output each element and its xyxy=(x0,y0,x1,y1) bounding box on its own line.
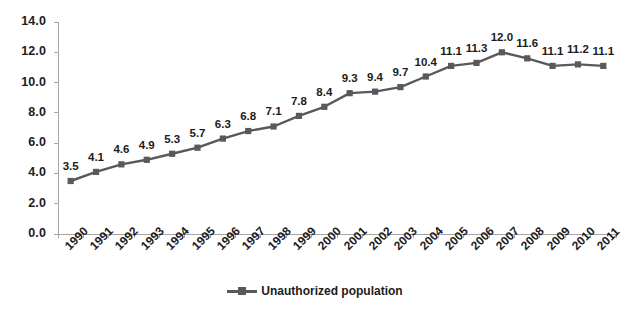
legend-marker-swatch xyxy=(227,285,257,297)
data-point-marker xyxy=(245,128,251,134)
y-axis-tick-label: 12.0 xyxy=(2,44,46,58)
data-point-marker xyxy=(144,157,150,163)
y-axis-tick-label: 8.0 xyxy=(2,105,46,119)
data-point-marker xyxy=(499,49,505,55)
data-point-marker xyxy=(524,55,530,61)
chart-tick-marks xyxy=(54,22,616,238)
data-point-marker xyxy=(194,145,200,151)
chart-container: 0.02.04.06.08.010.012.014.0 199019911992… xyxy=(0,0,630,309)
data-point-marker xyxy=(600,63,606,69)
data-point-value-label: 11.1 xyxy=(588,45,618,57)
data-point-marker xyxy=(397,84,403,90)
y-axis-tick-label: 10.0 xyxy=(2,75,46,89)
data-point-value-label: 7.1 xyxy=(259,105,289,117)
data-point-marker xyxy=(549,63,555,69)
y-axis-tick-label: 2.0 xyxy=(2,196,46,210)
data-point-marker xyxy=(296,113,302,119)
legend-series-label: Unauthorized population xyxy=(261,284,402,298)
y-axis-tick-label: 0.0 xyxy=(2,226,46,240)
chart-axes xyxy=(58,22,616,234)
data-point-marker xyxy=(473,60,479,66)
chart-legend: Unauthorized population xyxy=(0,281,630,301)
data-point-value-label: 9.7 xyxy=(385,66,415,78)
data-series-group xyxy=(68,49,607,184)
y-axis-tick-label: 4.0 xyxy=(2,165,46,179)
data-point-marker xyxy=(347,90,353,96)
data-point-marker xyxy=(448,63,454,69)
data-point-marker xyxy=(575,61,581,67)
data-point-marker xyxy=(68,178,74,184)
data-point-marker xyxy=(270,123,276,129)
data-point-marker xyxy=(321,104,327,110)
data-point-marker xyxy=(423,73,429,79)
data-point-value-label: 11.3 xyxy=(462,42,492,54)
data-point-marker xyxy=(220,136,226,142)
data-point-marker xyxy=(93,169,99,175)
data-point-marker xyxy=(118,161,124,167)
data-point-marker xyxy=(372,89,378,95)
data-point-value-label: 8.4 xyxy=(309,86,339,98)
data-point-value-label: 10.4 xyxy=(411,56,441,68)
legend-square-marker-icon xyxy=(238,287,246,295)
data-point-marker xyxy=(169,151,175,157)
y-axis-tick-label: 6.0 xyxy=(2,135,46,149)
y-axis-tick-label: 14.0 xyxy=(2,14,46,28)
